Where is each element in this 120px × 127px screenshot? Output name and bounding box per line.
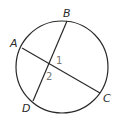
angle-label-2: 2 [46, 71, 52, 82]
label-b: B [63, 7, 71, 20]
circle [16, 21, 108, 113]
label-a: A [9, 37, 18, 50]
circle-chords-diagram: A B C D 1 2 [0, 0, 120, 127]
label-c: C [103, 92, 111, 105]
label-d: D [22, 102, 30, 115]
angle-label-1: 1 [56, 55, 62, 66]
